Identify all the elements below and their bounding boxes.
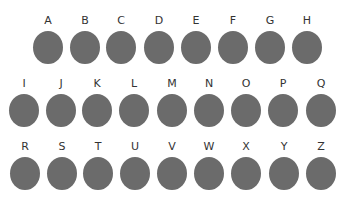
- letter-item-x[interactable]: X: [229, 141, 263, 191]
- letter-label: K: [80, 78, 114, 90]
- circle-icon: [269, 157, 299, 190]
- circle-icon: [306, 157, 336, 190]
- circle-icon: [82, 94, 112, 127]
- letter-label: V: [155, 141, 189, 153]
- letter-label: S: [45, 141, 79, 153]
- letter-item-w[interactable]: W: [192, 141, 226, 191]
- circle-icon: [46, 94, 76, 127]
- letter-label: T: [81, 141, 115, 153]
- letter-label: A: [31, 15, 65, 27]
- letter-label: C: [104, 15, 138, 27]
- letter-label: X: [229, 141, 263, 153]
- letter-item-e[interactable]: E: [179, 15, 213, 65]
- letter-item-v[interactable]: V: [155, 141, 189, 191]
- circle-icon: [157, 157, 187, 190]
- circle-icon: [47, 157, 77, 190]
- letter-item-y[interactable]: Y: [267, 141, 301, 191]
- circle-icon: [231, 157, 261, 190]
- letter-label: G: [253, 15, 287, 27]
- letter-item-m[interactable]: M: [155, 78, 189, 128]
- circle-icon: [33, 31, 63, 64]
- letter-label: Q: [304, 78, 338, 90]
- circle-icon: [144, 31, 174, 64]
- letter-item-z[interactable]: Z: [304, 141, 338, 191]
- circle-icon: [231, 94, 261, 127]
- letter-item-d[interactable]: D: [142, 15, 176, 65]
- circle-icon: [70, 31, 100, 64]
- circle-icon: [306, 94, 336, 127]
- letter-label: B: [68, 15, 102, 27]
- letter-label: Y: [267, 141, 301, 153]
- circle-icon: [268, 94, 298, 127]
- letter-label: Z: [304, 141, 338, 153]
- circle-icon: [9, 94, 39, 127]
- letter-item-f[interactable]: F: [216, 15, 250, 65]
- letter-label: J: [44, 78, 78, 90]
- letter-item-g[interactable]: G: [253, 15, 287, 65]
- letter-circle-grid: A B C D E F G H I J K L: [0, 0, 354, 205]
- letter-item-l[interactable]: L: [117, 78, 151, 128]
- letter-item-k[interactable]: K: [80, 78, 114, 128]
- circle-icon: [218, 31, 248, 64]
- circle-icon: [120, 157, 150, 190]
- letter-label: P: [266, 78, 300, 90]
- circle-icon: [194, 94, 224, 127]
- letter-label: O: [229, 78, 263, 90]
- letter-label: R: [8, 141, 42, 153]
- letter-item-j[interactable]: J: [44, 78, 78, 128]
- letter-label: H: [290, 15, 324, 27]
- circle-icon: [292, 31, 322, 64]
- letter-item-i[interactable]: I: [7, 78, 41, 128]
- letter-label: M: [155, 78, 189, 90]
- circle-icon: [255, 31, 285, 64]
- letter-item-b[interactable]: B: [68, 15, 102, 65]
- letter-label: I: [7, 78, 41, 90]
- letter-label: F: [216, 15, 250, 27]
- letter-label: N: [192, 78, 226, 90]
- letter-item-h[interactable]: H: [290, 15, 324, 65]
- letter-item-s[interactable]: S: [45, 141, 79, 191]
- circle-icon: [10, 157, 40, 190]
- letter-label: U: [118, 141, 152, 153]
- letter-label: L: [117, 78, 151, 90]
- letter-item-q[interactable]: Q: [304, 78, 338, 128]
- letter-item-n[interactable]: N: [192, 78, 226, 128]
- letter-item-o[interactable]: O: [229, 78, 263, 128]
- circle-icon: [181, 31, 211, 64]
- letter-item-c[interactable]: C: [104, 15, 138, 65]
- letter-item-a[interactable]: A: [31, 15, 65, 65]
- circle-icon: [106, 31, 136, 64]
- circle-icon: [194, 157, 224, 190]
- letter-item-u[interactable]: U: [118, 141, 152, 191]
- circle-icon: [119, 94, 149, 127]
- letter-item-p[interactable]: P: [266, 78, 300, 128]
- letter-label: E: [179, 15, 213, 27]
- circle-icon: [157, 94, 187, 127]
- letter-item-t[interactable]: T: [81, 141, 115, 191]
- letter-label: W: [192, 141, 226, 153]
- letter-item-r[interactable]: R: [8, 141, 42, 191]
- circle-icon: [83, 157, 113, 190]
- letter-label: D: [142, 15, 176, 27]
